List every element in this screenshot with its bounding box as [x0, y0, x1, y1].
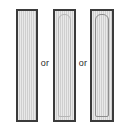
column-option-inner-light: [53, 9, 76, 122]
column-option-inner-dark: [90, 9, 114, 122]
column-option-plain: [16, 9, 38, 122]
inner-outline-dark: [95, 14, 109, 117]
connector-label-or-1: or: [38, 58, 52, 69]
column-options-diagram: or or: [0, 0, 120, 131]
connector-label-or-2: or: [76, 58, 90, 69]
inner-outline-light: [58, 14, 71, 117]
